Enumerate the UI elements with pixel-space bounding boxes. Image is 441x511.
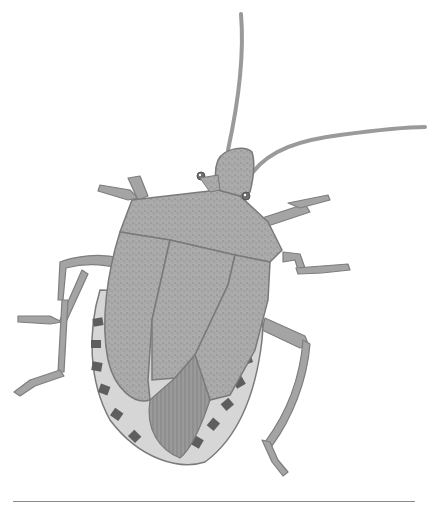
horizontal-divider	[13, 501, 415, 502]
antenna-left	[228, 14, 242, 150]
stink-bug-illustration	[0, 0, 441, 511]
eye-right	[242, 192, 250, 200]
antenna-right	[253, 127, 425, 172]
